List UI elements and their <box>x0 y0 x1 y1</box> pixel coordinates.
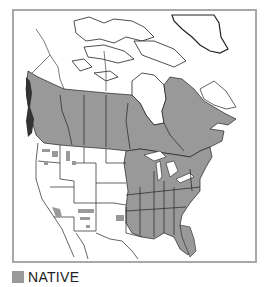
native-range-canada <box>26 71 236 157</box>
native-swatch <box>12 271 24 283</box>
arctic-islands <box>72 17 186 81</box>
map-legend: NATIVE <box>12 270 79 284</box>
range-map <box>12 9 257 263</box>
north-america-map <box>14 11 255 261</box>
greenland <box>172 15 228 53</box>
western-patches <box>42 149 124 228</box>
legend-label-native: NATIVE <box>28 270 79 284</box>
